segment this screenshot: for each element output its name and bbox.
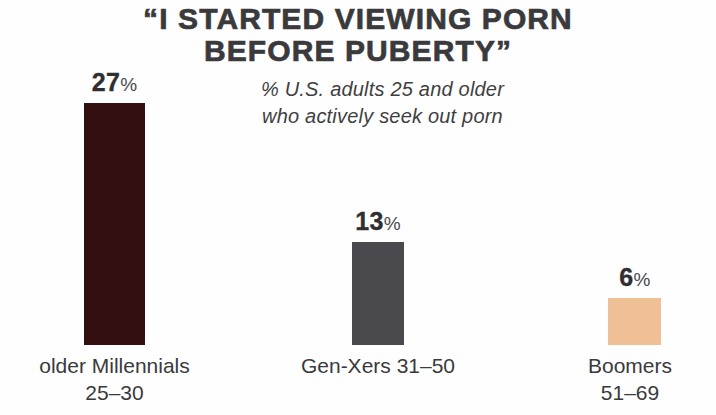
bar-category-label-line-2: 51–69 [545,379,715,406]
chart-figure: “I STARTED VIEWING PORN BEFORE PUBERTY” … [0,0,716,415]
bar-value-label: 6% [575,263,695,292]
bar-value-percent-sign: % [120,74,137,95]
bar-value-label: 27% [54,68,175,97]
bar-value-number: 13 [355,207,383,235]
bar-category-label-line-2: 25–30 [4,379,225,406]
plot-area: 27% older Millennials 25–30 13% Gen-Xers… [0,0,716,415]
bar-value-label: 13% [318,207,438,236]
bar-category-label: older Millennials 25–30 [4,352,225,406]
bar-older-millennials [84,103,145,345]
bar-category-label-line-1: older Millennials [4,352,225,379]
bar-value-number: 6 [619,263,633,291]
bar-value-percent-sign: % [384,213,401,234]
bar-boomers [608,298,661,345]
bar-value-number: 27 [92,68,120,96]
bar-category-label: Gen-Xers 31–50 [258,352,498,379]
bar-gen-xers [352,242,404,345]
bar-category-label-line-1: Gen-Xers 31–50 [258,352,498,379]
bar-category-label: Boomers 51–69 [545,352,715,406]
bar-value-percent-sign: % [634,269,651,290]
bar-category-label-line-1: Boomers [545,352,715,379]
